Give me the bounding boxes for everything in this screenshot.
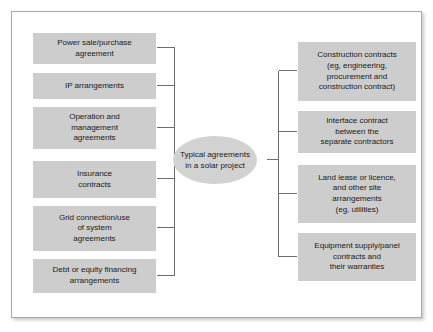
node-operation-and-management-agreements[interactable]: Operation andmanagementagreements xyxy=(33,107,156,149)
node-insurance-contracts[interactable]: Insurancecontracts xyxy=(33,161,156,198)
node-equipment-supply-panel-contracts[interactable]: Equipment supply/panelcontracts andtheir… xyxy=(298,233,416,281)
node-interface-contract[interactable]: Interface contractbetween theseparate co… xyxy=(298,111,416,153)
node-ip-arrangements[interactable]: IP arrangements xyxy=(33,73,156,99)
node-grid-connection-use-of-system-agreements[interactable]: Grid connection/useof systemagreements xyxy=(33,206,156,251)
hub-typical-agreements[interactable]: Typical agreementsin a solar project xyxy=(173,136,257,184)
diagram-frame: Power sale/purchaseagreement IP arrangem… xyxy=(11,11,422,318)
node-power-sale-purchase-agreement[interactable]: Power sale/purchaseagreement xyxy=(33,33,156,64)
node-construction-contracts[interactable]: Construction contracts(eg, engineering,p… xyxy=(298,42,416,101)
node-land-lease-or-licence[interactable]: Land lease or licence,and other sitearra… xyxy=(298,165,416,223)
diagram-canvas: Power sale/purchaseagreement IP arrangem… xyxy=(0,0,433,332)
node-debt-or-equity-financing-arrangements[interactable]: Debt or equity financingarrangements xyxy=(33,259,156,293)
